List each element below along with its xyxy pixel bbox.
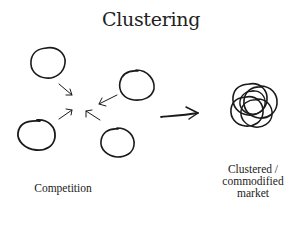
- circle-bottom-right: [101, 128, 134, 157]
- clustered-circles: [231, 84, 277, 127]
- competition-label: Competition: [13, 182, 113, 194]
- clustered-market-label: Clustered / commodified market: [213, 163, 293, 199]
- arrow-icon: [86, 110, 100, 120]
- right-arrow-icon: [161, 107, 198, 119]
- arrow-icon: [59, 84, 72, 95]
- circle-top-right: [120, 70, 154, 100]
- clustered-label-line-3: market: [213, 187, 293, 199]
- arrow-icon: [59, 109, 72, 119]
- clustered-label-line-2: commodified: [213, 175, 293, 187]
- circle-top-left: [31, 48, 65, 78]
- competition-arrows: [59, 84, 117, 120]
- arrow-icon: [99, 95, 117, 106]
- competition-circles: [18, 48, 154, 157]
- clustered-label-line-1: Clustered /: [213, 163, 293, 175]
- circle-bottom-left: [18, 120, 55, 150]
